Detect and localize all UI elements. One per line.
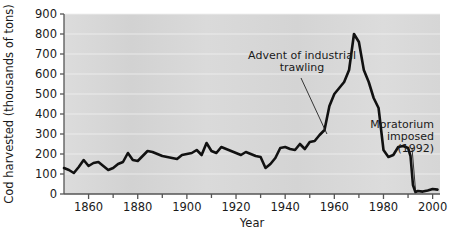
annotation-0-line-1: trawling (280, 61, 325, 74)
y-tick-label-700: 700 (35, 47, 57, 61)
y-tick-label-200: 200 (35, 147, 57, 161)
chart-canvas: 0100200300400500600700800900186018801900… (0, 0, 459, 241)
y-tick-label-800: 800 (35, 27, 57, 41)
y-axis-ticks: 0100200300400500600700800900 (35, 7, 64, 201)
cod-harvest-chart-figure: 0100200300400500600700800900186018801900… (0, 0, 459, 241)
y-axis-title: Cod harvested (thousands of tons) (2, 4, 16, 203)
y-tick-label-600: 600 (35, 67, 57, 81)
plot-background-shading (64, 14, 440, 194)
x-tick-label-2000: 2000 (418, 200, 447, 214)
x-tick-label-1860: 1860 (74, 200, 103, 214)
x-tick-label-1900: 1900 (172, 200, 201, 214)
x-tick-label-1880: 1880 (123, 200, 152, 214)
y-tick-label-500: 500 (35, 87, 57, 101)
y-tick-label-300: 300 (35, 127, 57, 141)
y-tick-label-100: 100 (35, 167, 57, 181)
x-tick-label-1920: 1920 (221, 200, 250, 214)
y-tick-label-400: 400 (35, 107, 57, 121)
annotation-1-line-2: (1992) (397, 142, 434, 155)
x-axis-ticks: 18601880190019201940196019802000 (74, 194, 447, 214)
y-tick-label-0: 0 (50, 187, 57, 201)
x-tick-label-1980: 1980 (369, 200, 398, 214)
y-tick-label-900: 900 (35, 7, 57, 21)
x-tick-label-1960: 1960 (320, 200, 349, 214)
x-tick-label-1940: 1940 (271, 200, 300, 214)
x-axis-title: Year (239, 216, 265, 230)
